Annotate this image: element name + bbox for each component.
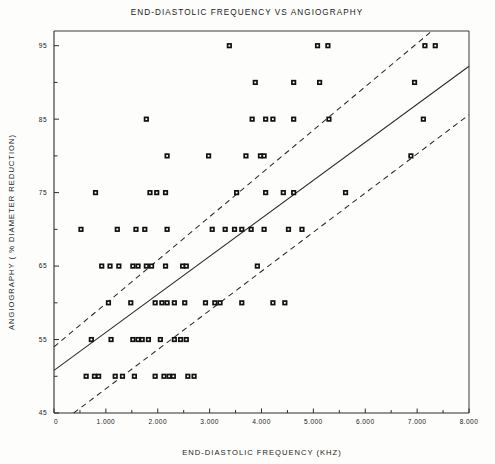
data-point	[115, 227, 120, 232]
data-point	[99, 263, 104, 268]
data-point	[227, 43, 232, 48]
data-point	[133, 227, 138, 232]
data-point	[286, 227, 291, 232]
plot-background	[0, 0, 495, 464]
data-point	[223, 227, 228, 232]
data-point	[161, 374, 166, 379]
svg-text:2.000: 2.000	[148, 418, 167, 425]
data-point	[128, 300, 133, 305]
x-axis-label: END-DIASTOLIC FREQUENCY (KHZ)	[182, 448, 342, 457]
data-point	[172, 300, 177, 305]
data-point	[291, 80, 296, 85]
data-point	[142, 227, 147, 232]
data-point	[203, 300, 208, 305]
data-point	[93, 190, 98, 195]
data-point	[144, 117, 149, 122]
data-point	[116, 263, 121, 268]
scatter-plot-canvas: END-DIASTOLIC FREQUENCY VS ANGIOGRAPHY 0…	[0, 0, 495, 464]
data-point	[96, 374, 101, 379]
data-point	[78, 227, 83, 232]
data-point	[315, 43, 320, 48]
data-point	[243, 153, 248, 158]
data-point	[149, 263, 154, 268]
svg-text:85: 85	[39, 116, 47, 123]
data-point	[291, 190, 296, 195]
data-point	[163, 263, 168, 268]
svg-text:65: 65	[39, 262, 47, 269]
data-point	[412, 80, 417, 85]
data-point	[253, 80, 258, 85]
data-point	[106, 300, 111, 305]
data-point	[140, 337, 145, 342]
svg-text:75: 75	[39, 189, 47, 196]
data-point	[408, 153, 413, 158]
data-point	[239, 300, 244, 305]
data-point	[212, 300, 217, 305]
data-point	[299, 227, 304, 232]
data-point	[263, 117, 268, 122]
data-point	[326, 117, 331, 122]
data-point	[261, 227, 266, 232]
data-point	[185, 374, 190, 379]
data-point	[144, 263, 149, 268]
data-point	[421, 117, 426, 122]
data-point	[154, 190, 159, 195]
data-point	[210, 227, 215, 232]
data-point	[89, 337, 94, 342]
data-point	[282, 300, 287, 305]
svg-text:55: 55	[39, 336, 47, 343]
data-point	[291, 117, 296, 122]
data-point	[164, 227, 169, 232]
data-point	[147, 190, 152, 195]
data-point	[178, 337, 183, 342]
data-point	[158, 337, 163, 342]
data-point	[130, 263, 135, 268]
data-point	[113, 374, 118, 379]
data-point	[159, 300, 164, 305]
svg-text:45: 45	[39, 409, 47, 416]
data-point	[317, 80, 322, 85]
data-point	[164, 153, 169, 158]
svg-text:0: 0	[54, 418, 58, 425]
data-point	[164, 300, 169, 305]
data-point	[107, 263, 112, 268]
data-point	[120, 374, 125, 379]
svg-text:95: 95	[39, 42, 47, 49]
data-point	[281, 190, 286, 195]
data-point	[263, 190, 268, 195]
svg-text:1.000: 1.000	[97, 418, 116, 425]
data-point	[184, 263, 189, 268]
data-point	[191, 374, 196, 379]
data-point	[255, 263, 260, 268]
data-point	[132, 374, 137, 379]
data-point	[153, 374, 158, 379]
svg-text:7.000: 7.000	[408, 418, 427, 425]
data-point	[433, 43, 438, 48]
data-point	[250, 117, 255, 122]
svg-text:3.000: 3.000	[200, 418, 219, 425]
svg-text:6.000: 6.000	[356, 418, 375, 425]
data-point	[217, 300, 222, 305]
data-point	[343, 190, 348, 195]
svg-text:4.000: 4.000	[252, 418, 271, 425]
y-axis-label: ANGIOGRAPHY ( % DIAMETER REDUCTION)	[7, 134, 16, 330]
data-point	[249, 227, 254, 232]
data-point	[135, 263, 140, 268]
data-point	[270, 117, 275, 122]
data-point	[270, 300, 275, 305]
data-point	[184, 337, 189, 342]
data-point	[206, 153, 211, 158]
data-point	[182, 300, 187, 305]
data-point	[171, 374, 176, 379]
data-point	[153, 300, 158, 305]
data-point	[163, 190, 168, 195]
data-point	[239, 227, 244, 232]
data-point	[232, 227, 237, 232]
data-point	[146, 337, 151, 342]
data-point	[172, 337, 177, 342]
data-point	[325, 43, 330, 48]
data-point	[108, 337, 113, 342]
svg-text:5.000: 5.000	[304, 418, 323, 425]
data-point	[422, 43, 427, 48]
svg-text:8.000: 8.000	[460, 418, 479, 425]
